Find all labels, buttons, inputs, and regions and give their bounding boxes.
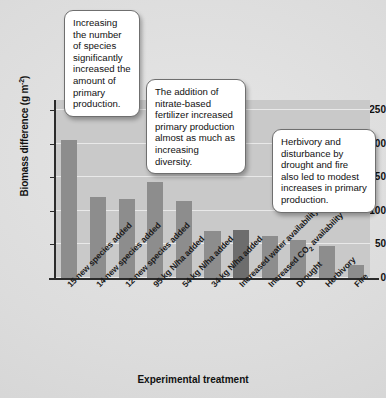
annotation-callout-fertilizer: The addition of nitrate-based fertilizer… — [146, 79, 246, 174]
y-axis-label-suffix: ) — [19, 76, 30, 79]
y-axis-label-text: Biomass difference (g m — [19, 85, 30, 197]
annotation-callout-disturbance: Herbivory and disturbance by drought and… — [272, 129, 376, 213]
y-axis-label: Biomass difference (g m-2) — [18, 56, 30, 216]
figure-page: Biomass difference (g m-2) 0501001502002… — [0, 0, 386, 398]
bar — [61, 140, 77, 278]
annotation-callout-diversity: Increasing the number of species signifi… — [64, 10, 140, 117]
y-axis-label-exponent: -2 — [18, 79, 25, 85]
y-axis-line — [54, 100, 56, 280]
x-axis-label: Experimental treatment — [0, 374, 386, 385]
